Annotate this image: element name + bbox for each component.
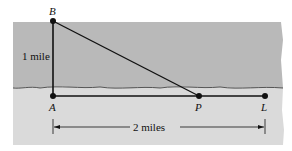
label-A: A <box>48 101 56 113</box>
vertical-distance-label: 1 mile <box>22 50 50 62</box>
horizontal-distance-label: 2 miles <box>133 121 165 133</box>
point-A <box>50 93 56 99</box>
point-B <box>50 18 56 24</box>
point-P <box>196 93 202 99</box>
river-diagram: B A P L 1 mile 2 miles <box>0 0 292 151</box>
label-P: P <box>194 101 202 113</box>
point-L <box>262 93 268 99</box>
label-B: B <box>49 5 56 17</box>
label-L: L <box>260 101 267 113</box>
